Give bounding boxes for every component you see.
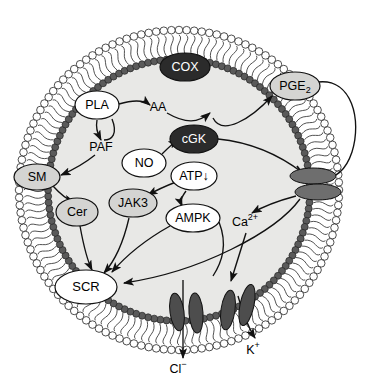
lipid-head-outer [175,346,183,354]
node-atp: ATP↓ [171,162,217,190]
lipid-head-outer [213,342,221,350]
lipid-head-outer [33,260,41,268]
lipid-head-outer [326,134,334,142]
lipid-head-outer [205,343,213,351]
lipid-head-outer [145,343,153,351]
lipid-head-outer [235,335,243,343]
channel-pge2-receptor-upper [290,168,336,184]
lipid-head-outer [205,29,213,37]
lipid-head-outer [137,342,145,350]
lipid-head-outer [18,216,26,224]
lipid-head-outer [335,179,343,187]
lipid-head-outer [145,29,153,37]
lipid-head-outer [137,31,145,39]
lipid-head-outer [324,127,332,135]
lipid-head-outer [213,31,221,39]
lipid-head-outer [109,332,117,340]
lipid-head-outer [332,216,340,224]
lipid-head-outer [235,38,243,46]
lipid-head-outer [331,224,339,232]
lipid-head-outer [160,345,168,353]
lipid-head-outer [102,44,110,52]
lipid-head-outer [321,253,329,261]
lipid-head-outer [116,38,124,46]
node-aa: AA [150,100,167,114]
lipid-head-outer [18,156,26,164]
node-cgk: cGK [170,125,218,153]
node-label-atp: ATP↓ [179,169,209,183]
lipid-head-outer [242,332,250,340]
node-label-no: NO [135,156,154,170]
lipid-head-outer [190,27,198,35]
lipid-head-outer [152,345,160,353]
node-label-cer: Cer [67,205,87,219]
lipid-head-outer [30,253,38,261]
channel-pge2-receptor-lower [295,184,341,200]
lipid-head-outer [190,345,198,353]
lipid-head-outer [27,246,35,254]
subscript: 2 [306,85,311,95]
node-label-paf: PAF [89,140,113,154]
lipid-head-outer [334,201,342,209]
lipid-head-outer [27,127,35,135]
node-jak3: JAK3 [109,189,157,217]
lipid-head-outer [321,120,329,128]
lipid-head-outer [228,35,236,43]
lipid-head-outer [326,239,334,247]
diagram-canvas: COXPGE2PLAAAPAFcGKNOATP↓SMJAK3CerAMPKCa2… [0,0,373,383]
lipid-head-outer [22,141,30,149]
lipid-head-outer [20,148,28,156]
lipid-head-outer [16,201,24,209]
node-label-cgk: cGK [182,132,207,146]
lipid-head-outer [22,231,30,239]
lipid-head-outer [123,35,131,43]
node-sm: SM [14,164,60,190]
lipid-head-outer [332,156,340,164]
lipid-head-outer [30,120,38,128]
lipid-head-outer [228,337,236,345]
node-scr: SCR [55,270,117,304]
lipid-head-outer [183,346,191,354]
lipid-head-outer [183,26,191,34]
lipid-head-outer [220,33,228,41]
node-label-pla: PLA [85,98,109,112]
lipid-head-outer [331,148,339,156]
lipid-head-outer [198,345,206,353]
lipid-head-outer [116,335,124,343]
lipid-head-outer [317,113,325,121]
node-paf: PAF [89,140,113,154]
lipid-head-outer [20,224,28,232]
lipid-head-outer [24,239,32,247]
lipid-head-outer [242,41,250,49]
lipid-head-outer [334,209,342,217]
lipid-head-outer [24,134,32,142]
node-pge2: PGE2 [270,72,320,100]
lipid-head-outer [329,231,337,239]
lipid-head-outer [168,26,176,34]
node-label-aa: AA [150,100,167,114]
lipid-head-outer [175,26,183,34]
pathway-diagram-figure: COXPGE2PLAAAPAFcGKNOATP↓SMJAK3CerAMPKCa2… [0,0,373,383]
lipid-head-outer [198,28,206,36]
node-cer: Cer [56,198,98,226]
lipid-head-outer [15,194,23,202]
lipid-head-outer [168,346,176,354]
superscript: 2+ [248,212,258,222]
lipid-head-outer [130,33,138,41]
lipid-head-outer [220,340,228,348]
lipid-head-outer [17,209,25,217]
lipid-head-outer [152,28,160,36]
lipid-head-outer [329,141,337,149]
node-label-ampk: AMPK [175,211,211,225]
node-cox: COX [160,53,210,81]
node-ampk: AMPK [166,204,220,232]
lipid-head-outer [324,246,332,254]
lipid-head-outer [334,163,342,171]
node-label-scr: SCR [72,279,99,294]
lipid-head-outer [109,41,117,49]
node-no: NO [122,149,166,177]
lipid-head-outer [160,27,168,35]
lipid-head-outer [123,337,131,345]
node-pla: PLA [75,91,119,119]
node-label-cox: COX [171,60,199,74]
